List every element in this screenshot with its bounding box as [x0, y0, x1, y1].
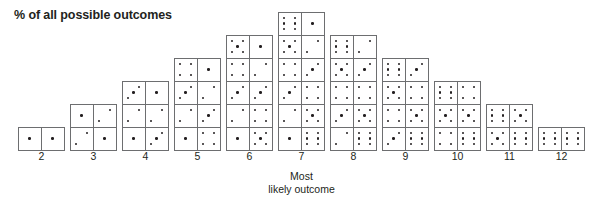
die-pip [283, 120, 286, 123]
die-pip [398, 97, 401, 100]
die-pip [421, 143, 424, 146]
die-face-3 [301, 58, 325, 82]
die-pip [439, 91, 442, 94]
die-pip [398, 132, 401, 135]
die-pip [150, 120, 153, 123]
die-pip [254, 120, 257, 123]
die-pip [369, 40, 372, 43]
die-pip [242, 51, 245, 54]
die-pip [179, 120, 182, 123]
die-pip [231, 97, 234, 100]
die-pip [410, 97, 413, 100]
die-face-5 [405, 104, 429, 128]
die-pip [317, 137, 320, 140]
sum-column-10 [434, 81, 480, 150]
dice-pair-row [226, 58, 272, 81]
die-face-6 [278, 12, 302, 36]
die-pip [231, 40, 234, 43]
die-pip [231, 51, 234, 54]
die-pip [202, 143, 205, 146]
dice-pair-row [122, 81, 168, 104]
die-pip [502, 143, 505, 146]
die-pip [398, 86, 401, 89]
sum-column-11 [486, 104, 532, 150]
die-pip [491, 143, 494, 146]
dice-pair-row [226, 127, 272, 150]
die-pip [190, 86, 193, 89]
x-axis-labels: 23456789101112 [0, 150, 604, 170]
die-pip [150, 143, 153, 146]
die-face-1 [93, 127, 117, 151]
sum-column-9 [382, 58, 428, 150]
die-pip [467, 114, 470, 117]
die-pip [184, 137, 187, 140]
die-pip [410, 120, 413, 123]
die-pip [288, 137, 291, 140]
die-face-6 [486, 104, 510, 128]
die-pip [363, 114, 366, 117]
callout-line-2: likely outcome [237, 183, 367, 196]
die-pip [410, 86, 413, 89]
x-axis-tick-label-11: 11 [486, 150, 533, 162]
die-pip [242, 40, 245, 43]
die-pip [514, 132, 517, 135]
die-pip [317, 132, 320, 135]
x-axis-tick-label-2: 2 [18, 150, 65, 162]
die-pip [335, 63, 338, 66]
die-pip [462, 120, 465, 123]
dice-pair-row [278, 81, 324, 104]
die-pip [294, 40, 297, 43]
die-pip [138, 109, 141, 112]
die-face-5 [278, 35, 302, 59]
die-pip [358, 137, 361, 140]
die-pip [462, 97, 465, 100]
die-pip [514, 109, 517, 112]
die-face-2 [174, 104, 198, 128]
die-pip [525, 137, 528, 140]
die-pip [202, 132, 205, 135]
dice-pair-row [226, 35, 272, 58]
die-face-1 [174, 127, 198, 151]
x-axis-tick-label-6: 6 [226, 150, 273, 162]
die-pip [462, 143, 465, 146]
die-pip [283, 74, 286, 77]
die-pip [346, 45, 349, 48]
dice-pair-row [486, 104, 532, 127]
dice-pair-row [330, 127, 376, 150]
die-pip [317, 143, 320, 146]
die-pip [491, 132, 494, 135]
die-pip [213, 86, 216, 89]
die-face-1 [249, 35, 273, 59]
die-pip [502, 120, 505, 123]
die-pip [525, 143, 528, 146]
die-face-1 [197, 58, 221, 82]
x-axis-tick-label-4: 4 [122, 150, 169, 162]
die-pip [363, 68, 366, 71]
die-pip [138, 86, 141, 89]
die-face-3 [122, 81, 146, 105]
die-face-3 [249, 81, 273, 105]
die-pip [398, 120, 401, 123]
die-pip [254, 143, 257, 146]
die-pip [519, 114, 522, 117]
die-pip [502, 109, 505, 112]
die-pip [294, 17, 297, 20]
die-pip [410, 74, 413, 77]
die-pip [369, 109, 372, 112]
die-face-5 [382, 81, 406, 105]
die-face-3 [353, 58, 377, 82]
die-pip [213, 132, 216, 135]
dice-pair-row [122, 104, 168, 127]
dice-pair-row [434, 104, 480, 127]
die-pip [283, 22, 286, 25]
die-face-4 [353, 81, 377, 105]
die-pip [86, 132, 89, 135]
die-pip [462, 109, 465, 112]
die-pip [358, 86, 361, 89]
die-face-2 [70, 127, 94, 151]
die-pip [335, 40, 338, 43]
die-pip [473, 97, 476, 100]
die-pip [369, 137, 372, 140]
die-pip [473, 120, 476, 123]
die-pip [358, 120, 361, 123]
